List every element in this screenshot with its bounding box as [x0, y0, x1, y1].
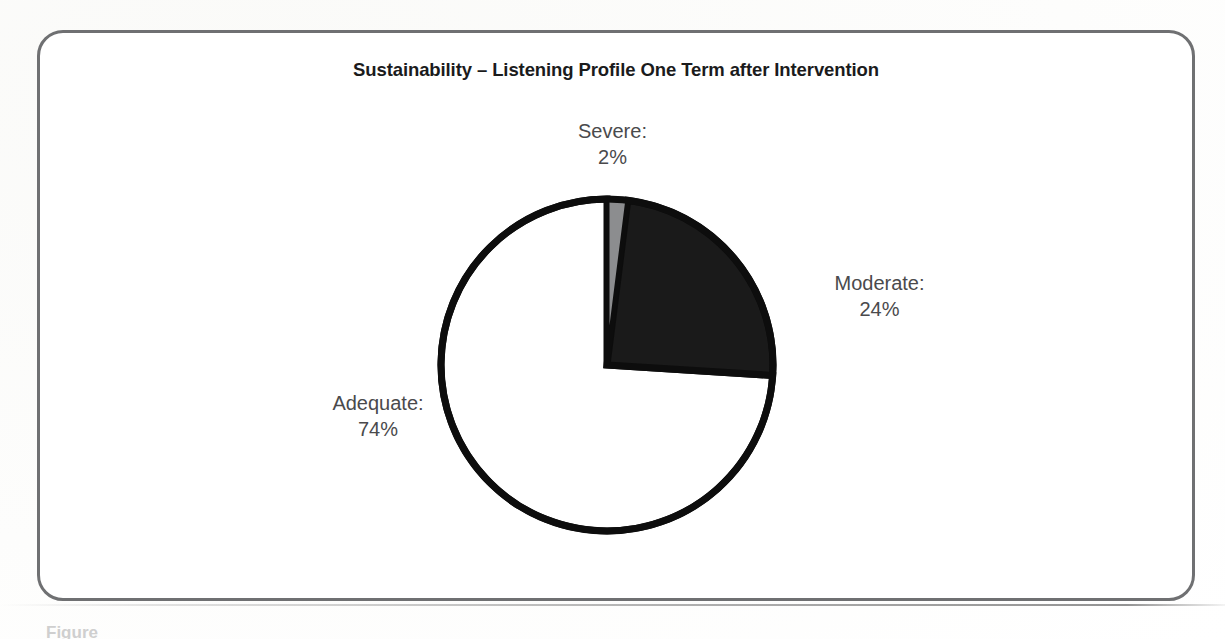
pie-slice-moderate[interactable]: [607, 200, 773, 375]
chart-title: Sustainability – Listening Profile One T…: [37, 59, 1195, 81]
pie-chart-svg: [437, 192, 782, 542]
pie-label-adequate-name: Adequate:: [283, 390, 473, 416]
pie-label-adequate: Adequate: 74%: [283, 390, 473, 443]
pie-label-adequate-value: 74%: [283, 416, 473, 442]
figure-caption-fragment: Figure: [46, 623, 98, 639]
pie-label-moderate-value: 24%: [782, 296, 977, 322]
pie-chart: [437, 192, 782, 542]
pie-label-severe: Severe: 2%: [520, 118, 705, 171]
pie-label-severe-name: Severe:: [520, 118, 705, 144]
scan-edge-shadow: [0, 604, 1225, 606]
pie-label-moderate-name: Moderate:: [782, 270, 977, 296]
figure-page: Sustainability – Listening Profile One T…: [0, 0, 1225, 639]
pie-label-severe-value: 2%: [520, 144, 705, 170]
pie-label-moderate: Moderate: 24%: [782, 270, 977, 323]
